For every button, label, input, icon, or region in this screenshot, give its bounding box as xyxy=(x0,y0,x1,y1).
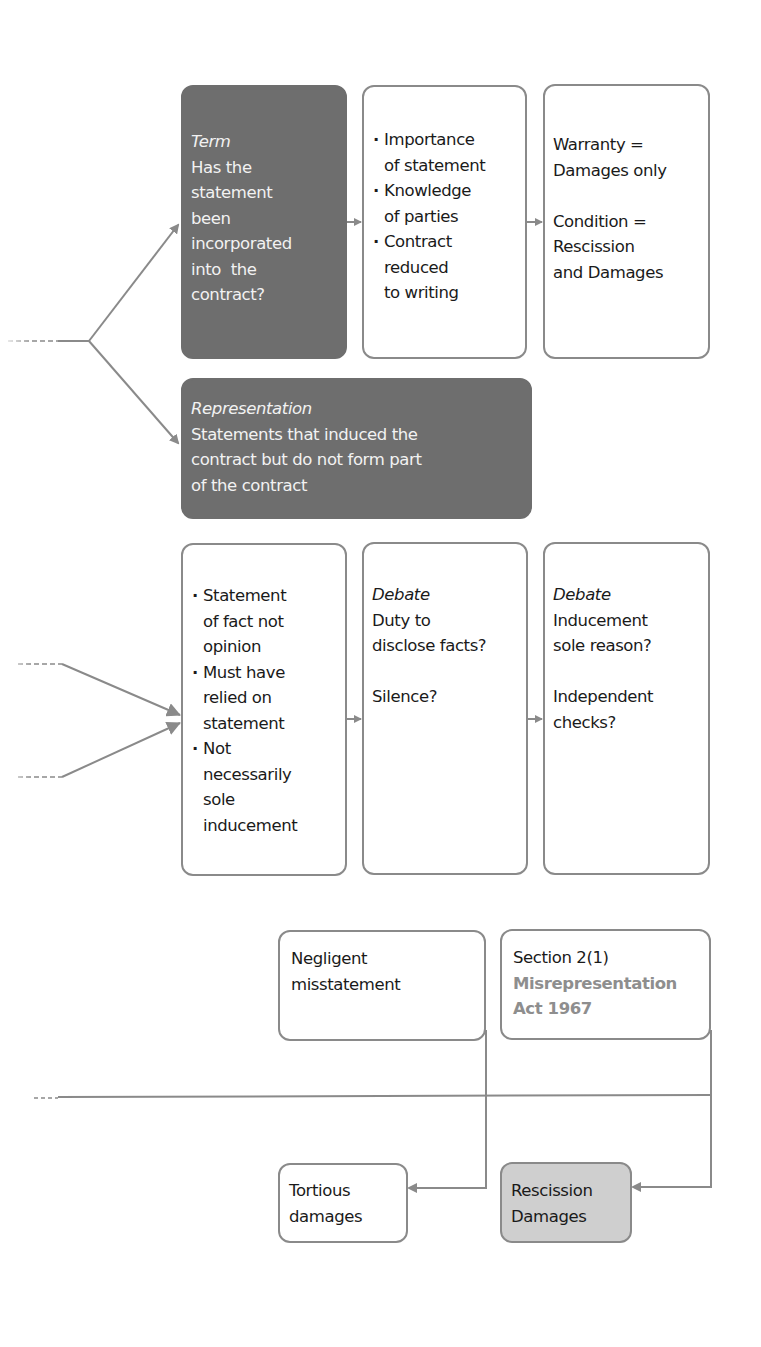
rescission-damages-box: Rescission Damages xyxy=(500,1162,632,1243)
section-text: Section 2(1) xyxy=(513,945,701,971)
factor-bullet: Importance of statement xyxy=(374,127,517,178)
negligent-text-line: misstatement xyxy=(291,972,476,998)
requirement-text: inducement xyxy=(203,813,337,839)
tortious-damages-box: Tortious damages xyxy=(278,1163,408,1243)
factor-text: to writing xyxy=(384,280,517,306)
requirements-box: Statement of fact not opinion Must have … xyxy=(181,543,347,876)
condition-text: Condition = xyxy=(553,209,700,235)
factor-text: Importance xyxy=(384,130,475,149)
term-box: Term Has the statement been incorporated… xyxy=(181,85,347,359)
arrow-section-to-rescission xyxy=(633,1030,711,1187)
edge-fade xyxy=(0,640,30,800)
spacer xyxy=(553,659,700,685)
debate-disclosure-box: Debate Duty to disclose facts? Silence? xyxy=(362,542,528,875)
section-2-1-box: Section 2(1) Misrepresentation Act 1967 xyxy=(500,929,711,1040)
representation-text-line: contract but do not form part xyxy=(191,447,522,473)
edge-fade xyxy=(0,320,30,360)
debate-text-line: Duty to xyxy=(372,608,518,634)
term-text-line: Has the xyxy=(191,155,337,181)
term-text-line: into the xyxy=(191,257,337,283)
rescission-text-line: Rescission xyxy=(511,1178,622,1204)
negligent-text-line: Negligent xyxy=(291,946,476,972)
tortious-text-line: damages xyxy=(289,1204,398,1230)
requirement-text: sole xyxy=(203,787,337,813)
tortious-text-line: Tortious xyxy=(289,1178,398,1204)
factor-text: Contract xyxy=(384,232,452,251)
factor-bullet: Knowledge of parties xyxy=(374,178,517,229)
arrow-to-requirements-1 xyxy=(62,664,180,715)
debate-text-line: disclose facts? xyxy=(372,633,518,659)
requirement-text: relied on xyxy=(203,685,337,711)
debate-text-line: Silence? xyxy=(372,684,518,710)
warranty-text: Warranty = xyxy=(553,132,700,158)
factor-bullet: Contract reduced to writing xyxy=(374,229,517,306)
arrow-to-term xyxy=(89,225,178,341)
debate-text-line: sole reason? xyxy=(553,633,700,659)
factor-text: of parties xyxy=(384,204,517,230)
term-text-line: incorporated xyxy=(191,231,337,257)
debate-text-line: checks? xyxy=(553,710,700,736)
bottom-horizontal-line xyxy=(58,1095,711,1097)
arrow-negligent-to-tortious xyxy=(409,1030,486,1188)
debate-heading: Debate xyxy=(553,582,700,608)
representation-heading: Representation xyxy=(191,396,522,422)
spacer xyxy=(372,659,518,685)
requirement-bullet: Must have relied on statement xyxy=(193,660,337,737)
requirement-bullet: Statement of fact not opinion xyxy=(193,583,337,660)
arrow-to-requirements-2 xyxy=(62,723,180,777)
debate-text-line: Inducement xyxy=(553,608,700,634)
requirement-bullet: Not necessarily sole inducement xyxy=(193,736,337,838)
condition-text: Rescission xyxy=(553,234,700,260)
factor-text: reduced xyxy=(384,255,517,281)
requirement-text: Statement xyxy=(203,586,286,605)
spacer xyxy=(553,183,700,209)
representation-box: Representation Statements that induced t… xyxy=(181,378,532,519)
term-text-line: been xyxy=(191,206,337,232)
negligent-misstatement-box: Negligent misstatement xyxy=(278,930,486,1041)
requirement-text: statement xyxy=(203,711,337,737)
act-year-text: Act 1967 xyxy=(513,996,701,1022)
term-heading: Term xyxy=(191,129,337,155)
requirement-text: necessarily xyxy=(203,762,337,788)
act-name-text: Misrepresentation xyxy=(513,971,701,997)
requirement-text: opinion xyxy=(203,634,337,660)
factor-text: of statement xyxy=(384,153,517,179)
requirement-text: of fact not xyxy=(203,609,337,635)
arrow-to-representation xyxy=(89,341,178,443)
requirement-text: Not xyxy=(203,739,231,758)
representation-text-line: Statements that induced the xyxy=(191,422,522,448)
term-factors-box: Importance of statement Knowledge of par… xyxy=(362,85,527,359)
debate-inducement-box: Debate Inducement sole reason? Independe… xyxy=(543,542,710,875)
representation-text-line: of the contract xyxy=(191,473,522,499)
term-text-line: statement xyxy=(191,180,337,206)
debate-heading: Debate xyxy=(372,582,518,608)
rescission-text-line: Damages xyxy=(511,1204,622,1230)
remedies-box: Warranty = Damages only Condition = Resc… xyxy=(543,84,710,359)
debate-text-line: Independent xyxy=(553,684,700,710)
term-text-line: contract? xyxy=(191,282,337,308)
condition-text: and Damages xyxy=(553,260,700,286)
requirement-text: Must have xyxy=(203,663,285,682)
warranty-text: Damages only xyxy=(553,158,700,184)
factor-text: Knowledge xyxy=(384,181,471,200)
